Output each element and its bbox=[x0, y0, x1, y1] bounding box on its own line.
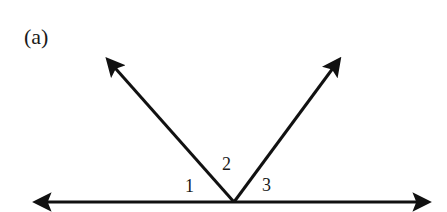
angle-diagram: (a) 1 2 3 bbox=[0, 0, 447, 212]
right-ray bbox=[234, 60, 339, 202]
angle-label-3: 3 bbox=[262, 175, 271, 195]
panel-label: (a) bbox=[24, 24, 48, 49]
angle-label-1: 1 bbox=[185, 176, 194, 196]
angle-label-2: 2 bbox=[222, 154, 231, 174]
left-ray bbox=[108, 60, 234, 202]
